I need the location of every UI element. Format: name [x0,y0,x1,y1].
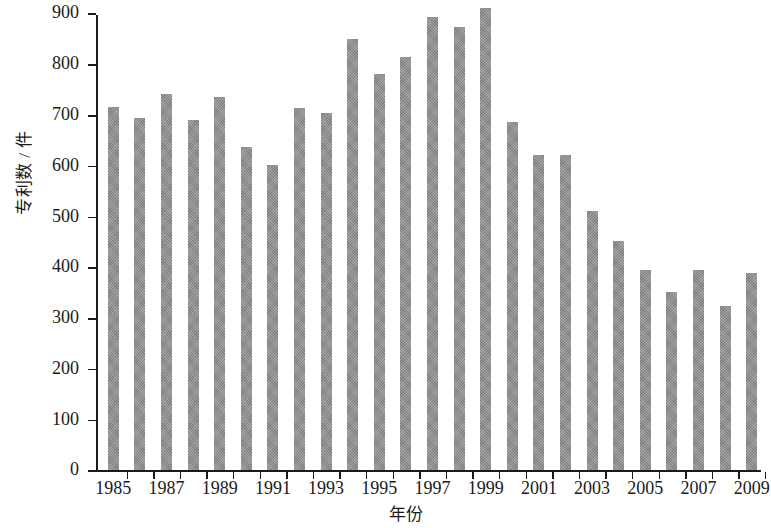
x-axis-title: 年份 [0,500,771,525]
y-tick: 900 [88,13,96,15]
x-tick-label: 2003 [574,478,610,499]
y-tick: 400 [88,267,96,269]
x-tick-label: 1991 [255,478,291,499]
bar [560,155,571,470]
y-tick-label: 900 [52,2,79,23]
x-tick-label: 1993 [308,478,344,499]
x-tick-label: 1997 [415,478,451,499]
bar [214,97,225,471]
bar [294,108,305,470]
bar [108,107,119,471]
bar-chart: 专利数 / 件 0100200300400500600700800900 198… [0,0,771,528]
x-tick-label: 2001 [521,478,557,499]
x-tick-label: 2005 [627,478,663,499]
x-tick-label: 1989 [202,478,238,499]
bar [427,17,438,470]
bar [188,120,199,470]
y-tick-label: 500 [52,206,79,227]
y-tick: 700 [88,115,96,117]
y-tick: 600 [88,166,96,168]
plot-area: 0100200300400500600700800900 19851987198… [96,15,761,472]
bar [241,147,252,470]
bar [587,211,598,470]
y-tick: 500 [88,217,96,219]
bar [347,39,358,471]
bar [267,165,278,470]
bar [746,273,757,471]
y-tick-label: 400 [52,256,79,277]
x-axis-line [96,470,761,472]
y-tick: 0 [88,470,96,472]
x-tick-label: 1995 [361,478,397,499]
bar [533,155,544,470]
y-tick-label: 200 [52,358,79,379]
y-axis-title: 专利数 / 件 [10,103,35,243]
y-tick-label: 100 [52,409,79,430]
x-tick-label: 2009 [734,478,770,499]
bar [613,241,624,471]
x-tick-label: 2007 [681,478,717,499]
bar [321,113,332,470]
x-tick-label: 1985 [95,478,131,499]
bar [480,8,491,470]
y-axis-line [96,15,98,472]
y-tick-label: 300 [52,307,79,328]
y-tick-label: 700 [52,104,79,125]
bar [666,292,677,471]
bar [161,94,172,470]
x-tick-label: 1987 [149,478,185,499]
bar [400,57,411,471]
bar [640,270,651,470]
bar [134,118,145,470]
bar [507,122,518,470]
y-tick-label: 600 [52,155,79,176]
y-tick-label: 800 [52,53,79,74]
bar [720,306,731,471]
y-tick-label: 0 [70,459,79,480]
bar [374,74,385,470]
y-tick: 300 [88,318,96,320]
y-tick: 200 [88,369,96,371]
y-tick: 800 [88,64,96,66]
y-tick: 100 [88,420,96,422]
bar [454,27,465,470]
x-tick-label: 1999 [468,478,504,499]
bar [693,270,704,471]
